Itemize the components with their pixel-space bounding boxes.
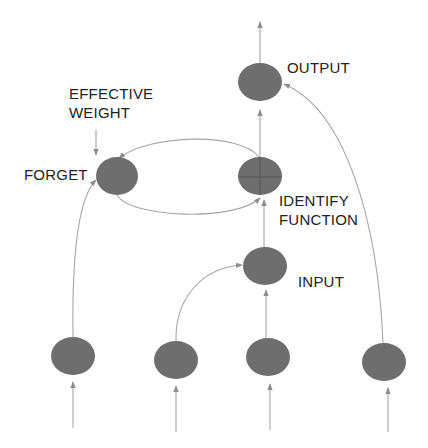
lstm-cell-diagram [0,0,428,448]
x1-to-forget-arrow [73,180,96,337]
effective-weight-label: EFFECTIVE WEIGHT [69,84,153,122]
x1-node [51,337,95,375]
forget-to-identity-arrow [117,195,260,214]
identify-line1: IDENTIFY [279,191,358,210]
x4-node [362,343,406,381]
identify-line2: FUNCTION [279,210,358,229]
output-label: OUTPUT [287,58,350,77]
input-label: INPUT [298,272,344,291]
effective-weight-line1: EFFECTIVE [69,84,153,103]
x3-node [246,338,290,376]
x2-to-input-arrow [176,265,242,341]
x2-node [154,341,198,379]
forget-node [96,157,138,195]
input-node [243,247,287,285]
effective-weight-line2: WEIGHT [69,103,153,122]
forget-label: FORGET [24,165,88,184]
identify-function-label: IDENTIFY FUNCTION [279,191,358,229]
identity-to-forget-arrow [119,139,259,158]
output-node [238,63,282,101]
